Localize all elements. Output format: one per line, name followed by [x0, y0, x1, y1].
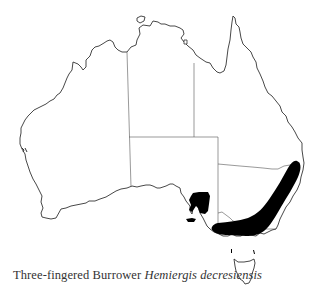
australia-distribution-map	[0, 0, 320, 289]
mainland-coastline	[20, 16, 304, 236]
figure-caption: Three-fingered Burrower Hemiergis decres…	[13, 268, 262, 283]
melville-island	[137, 16, 145, 23]
scientific-name: Hemiergis decresiensis	[145, 268, 263, 282]
groote-eylandt	[184, 40, 187, 44]
bass-strait-island-1	[231, 249, 232, 253]
common-name: Three-fingered Burrower	[13, 268, 141, 282]
distribution-area-south-australia	[189, 192, 210, 214]
kangaroo-island-outline	[186, 218, 196, 222]
bass-strait-island-2	[253, 250, 255, 254]
